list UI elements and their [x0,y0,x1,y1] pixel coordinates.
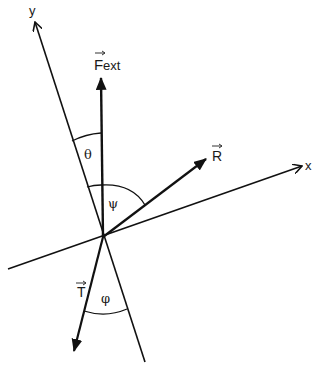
svg-text:F: F [94,56,103,73]
y-axis [35,22,145,362]
r-label: R [212,144,222,164]
x-axis [8,166,302,269]
f-ext-vector [101,78,103,237]
psi-arc-left [87,185,101,187]
phi-label: φ [101,291,110,306]
svg-text:T: T [77,284,86,300]
t-label: T [76,281,86,300]
r-vector [103,159,206,237]
x-axis-label: x [305,158,312,173]
theta-arc [72,133,101,141]
phi-arc [84,309,127,314]
theta-label: θ [84,147,92,162]
svg-text:ext: ext [103,58,121,73]
f-ext-label: F ext [94,51,121,73]
psi-label: ψ [108,196,118,211]
svg-text:R: R [212,148,222,164]
force-diagram: y x F ext R T θ ψ φ [0,0,323,365]
y-axis-label: y [29,3,36,18]
